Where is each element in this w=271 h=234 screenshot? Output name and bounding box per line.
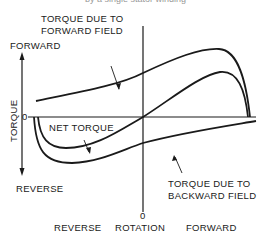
forward-field-label-line1: TORQUE DUE TO [41, 13, 124, 24]
rotation-label: ROTATION [115, 222, 165, 233]
rotation-reverse-label: REVERSE [54, 222, 102, 233]
forward-field-label-line2: FORWARD FIELD [41, 25, 123, 36]
rotation-zero-label: 0 [140, 210, 146, 221]
net-torque-label: NET TORQUE [49, 122, 114, 133]
backward-field-label-line2: BACKWARD FIELD [168, 190, 256, 201]
torque-zero-label: 0 [22, 111, 28, 122]
rotation-forward-label: FORWARD [186, 222, 237, 233]
torque-axis-label: TORQUE [8, 100, 19, 142]
torque-forward-label: FORWARD [10, 40, 61, 51]
backward-field-label-line1: TORQUE DUE TO [168, 178, 251, 189]
torque-reverse-label: REVERSE [16, 183, 64, 194]
